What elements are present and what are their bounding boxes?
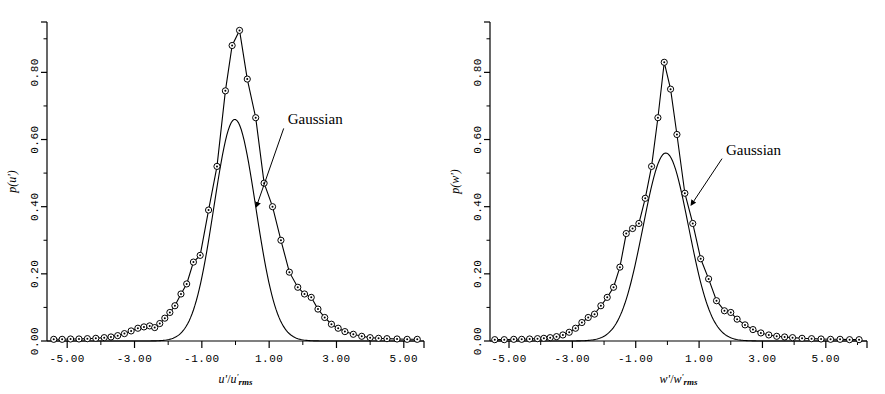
data-point-center	[716, 300, 718, 302]
x-tick-label: 5.00	[390, 353, 418, 365]
data-point-center	[86, 338, 88, 340]
data-point-center	[352, 333, 354, 335]
plot-panel-left: 0.000.200.400.600.80-5.00-3.00-1.001.003…	[0, 0, 442, 394]
data-point-center	[330, 323, 332, 325]
x-tick-label: -5.00	[49, 353, 85, 365]
data-point-center	[272, 206, 274, 208]
data-point-center	[638, 222, 640, 224]
data-point-center	[692, 222, 694, 224]
data-point-center	[70, 338, 72, 340]
y-tick-label: 0.80	[29, 58, 41, 86]
plot-svg-right: 0.000.200.400.600.80-5.00-3.00-1.001.003…	[443, 0, 885, 394]
plot-panel-right: 0.000.200.400.600.80-5.00-3.00-1.001.003…	[443, 0, 885, 394]
data-point-center	[186, 283, 188, 285]
data-point-center	[575, 327, 577, 329]
data-point-center	[174, 305, 176, 307]
data-point-center	[78, 338, 80, 340]
data-point-center	[736, 318, 738, 320]
data-point-center	[820, 338, 822, 340]
data-point-center	[792, 337, 794, 339]
data-point-center	[246, 78, 248, 80]
data-point-center	[830, 338, 832, 340]
data-point-center	[324, 316, 326, 318]
data-point-center	[208, 209, 210, 211]
data-point-center	[164, 317, 166, 319]
y-axis-title: p(w')	[448, 169, 462, 195]
data-point-center	[760, 332, 762, 334]
data-point-center	[123, 333, 125, 335]
data-point-center	[95, 337, 97, 339]
data-point-center	[386, 338, 388, 340]
y-tick-label: 0.40	[29, 192, 41, 220]
data-point-center	[657, 117, 659, 119]
data-point-center	[61, 338, 63, 340]
data-point-center	[684, 192, 686, 194]
data-point-center	[613, 286, 615, 288]
data-point-center	[192, 261, 194, 263]
data-point-center	[521, 338, 523, 340]
data-point-center	[849, 339, 851, 341]
data-point-center	[304, 293, 306, 295]
y-tick-label: 0.00	[29, 327, 41, 355]
data-point-center	[288, 271, 290, 273]
gaussian-annotation-arrow	[256, 128, 283, 206]
measured-data-markers	[51, 27, 421, 342]
x-tick-label: -1.00	[618, 353, 654, 365]
y-tick-label: 0.40	[472, 192, 484, 220]
data-point-center	[180, 293, 182, 295]
data-point-center	[670, 88, 672, 90]
data-point-center	[644, 197, 646, 199]
data-point-center	[752, 329, 754, 331]
x-axis-title: u'/u'rms	[219, 372, 253, 387]
data-point-center	[53, 338, 55, 340]
measured-data-line	[54, 30, 418, 339]
data-point-center	[396, 338, 398, 340]
data-point-center	[416, 338, 418, 340]
data-point-center	[310, 296, 312, 298]
data-point-center	[594, 313, 596, 315]
x-tick-label: 3.00	[748, 353, 776, 365]
data-point-center	[137, 327, 139, 329]
data-point-center	[297, 286, 299, 288]
data-point-center	[110, 336, 112, 338]
data-point-center	[663, 61, 665, 63]
data-point-center	[723, 310, 725, 312]
data-point-center	[625, 233, 627, 235]
data-point-center	[344, 331, 346, 333]
y-tick-label: 0.00	[472, 327, 484, 355]
x-tick-label: -3.00	[555, 353, 591, 365]
data-point-center	[159, 323, 161, 325]
data-point-center	[317, 308, 319, 310]
data-point-center	[549, 337, 551, 339]
data-point-center	[768, 334, 770, 336]
x-tick-label: 1.00	[685, 353, 713, 365]
data-point-center	[744, 324, 746, 326]
data-point-center	[708, 278, 710, 280]
gaussian-annotation-label: Gaussian	[288, 111, 343, 127]
figure-container: 0.000.200.400.600.80-5.00-3.00-1.001.003…	[0, 0, 885, 394]
x-tick-label: 3.00	[322, 353, 350, 365]
data-point-center	[784, 336, 786, 338]
data-point-center	[406, 338, 408, 340]
data-point-center	[103, 337, 105, 339]
data-point-center	[556, 336, 558, 338]
data-point-center	[839, 338, 841, 340]
data-point-center	[154, 327, 156, 329]
data-point-center	[239, 29, 241, 31]
data-point-center	[117, 335, 119, 337]
data-point-center	[378, 337, 380, 339]
y-axis-title: p(u')	[5, 170, 19, 194]
data-point-center	[587, 316, 589, 318]
data-point-center	[543, 337, 545, 339]
y-tick-label: 0.60	[472, 125, 484, 153]
data-point-center	[149, 325, 151, 327]
data-point-center	[337, 327, 339, 329]
data-point-center	[231, 45, 233, 47]
data-point-center	[199, 254, 201, 256]
data-point-center	[503, 339, 505, 341]
data-point-center	[369, 337, 371, 339]
y-tick-label: 0.20	[472, 260, 484, 288]
gaussian-curve	[490, 153, 867, 341]
x-tick-label: -5.00	[491, 353, 527, 365]
data-point-center	[581, 322, 583, 324]
